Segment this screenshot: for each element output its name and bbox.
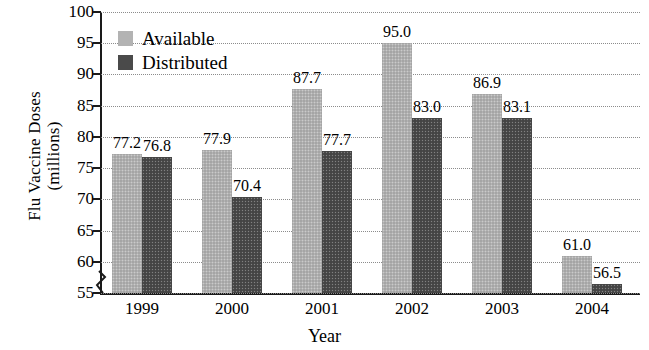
bar-value-label: 77.7 — [314, 132, 360, 148]
y-axis-tick — [93, 292, 101, 294]
legend-swatch-distributed — [118, 55, 133, 70]
y-axis-title-line1: Flu Vaccine Doses — [25, 91, 44, 221]
bar-value-label: 70.4 — [224, 178, 270, 194]
bar-value-label: 77.9 — [194, 131, 240, 147]
bar-value-label: 83.1 — [494, 99, 540, 115]
gridline — [100, 137, 640, 138]
legend-item-available: Available — [118, 26, 228, 50]
y-axis-tick — [93, 136, 101, 138]
y-axis-tick-label: 70 — [60, 190, 94, 207]
y-axis-tick-label: 65 — [60, 222, 94, 239]
x-axis-label-2003: 2003 — [457, 299, 547, 319]
y-axis-tick — [93, 73, 101, 75]
bar-value-label: 56.5 — [584, 265, 630, 281]
gridline — [100, 262, 640, 263]
y-axis-line — [100, 12, 102, 295]
chart-root: Flu Vaccine Doses (millions) 10095908580… — [0, 0, 649, 350]
y-axis-tick — [93, 105, 101, 107]
x-axis-label-2002: 2002 — [367, 299, 457, 319]
bar-distributed-2000 — [232, 197, 262, 293]
bar-value-label: 76.8 — [134, 138, 180, 154]
bar-distributed-1999 — [142, 157, 172, 293]
x-axis-title: Year — [0, 326, 649, 347]
gridline — [100, 199, 640, 200]
legend-item-distributed: Distributed — [118, 50, 228, 74]
y-axis-tick — [93, 198, 101, 200]
legend-swatch-available — [118, 31, 133, 46]
y-axis-tick-label: 85 — [60, 97, 94, 114]
bar-value-label: 87.7 — [284, 70, 330, 86]
x-axis-label-1999: 1999 — [97, 299, 187, 319]
legend-label-available: Available — [142, 29, 214, 48]
y-axis-tick-label: 75 — [60, 159, 94, 176]
bar-available-2003 — [472, 94, 502, 293]
y-axis-tick — [93, 167, 101, 169]
y-axis-tick — [93, 42, 101, 44]
bar-available-2000 — [202, 150, 232, 293]
bar-distributed-2001 — [322, 151, 352, 293]
legend: Available Distributed — [118, 26, 228, 74]
gridline — [100, 12, 640, 13]
gridline — [100, 74, 640, 75]
bar-value-label: 95.0 — [374, 24, 420, 40]
x-axis-label-2004: 2004 — [547, 299, 637, 319]
y-axis-tick-label: 95 — [60, 34, 94, 51]
bar-available-2001 — [292, 89, 322, 293]
y-axis-tick-label: 60 — [60, 253, 94, 270]
y-axis-tick — [93, 11, 101, 13]
y-axis-tick-label: 100 — [60, 3, 94, 20]
x-axis-label-2000: 2000 — [187, 299, 277, 319]
y-axis-tick — [93, 230, 101, 232]
legend-label-distributed: Distributed — [142, 53, 228, 72]
gridline — [100, 168, 640, 169]
bar-available-1999 — [112, 154, 142, 293]
bar-distributed-2003 — [502, 118, 532, 293]
gridline — [100, 106, 640, 107]
bar-value-label: 61.0 — [554, 237, 600, 253]
x-axis-label-2001: 2001 — [277, 299, 367, 319]
y-axis-tick-labels: 100959085807570656055 — [56, 12, 94, 295]
y-axis-tick-label: 55 — [60, 284, 94, 301]
gridline — [100, 231, 640, 232]
bar-value-label: 86.9 — [464, 75, 510, 91]
y-axis-tick-label: 90 — [60, 65, 94, 82]
bar-distributed-2002 — [412, 118, 442, 293]
bar-value-label: 83.0 — [404, 99, 450, 115]
bar-available-2002 — [382, 43, 412, 293]
bar-distributed-2004 — [592, 284, 622, 293]
y-axis-tick — [93, 261, 101, 263]
gridline — [100, 293, 640, 294]
y-axis-tick-label: 80 — [60, 128, 94, 145]
